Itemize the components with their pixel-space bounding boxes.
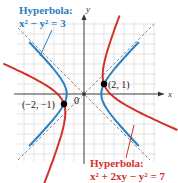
red-hyperbola-title: Hyperbola: xyxy=(90,157,144,169)
red-label-pointer xyxy=(126,125,134,158)
origin-label: 0 xyxy=(74,95,79,106)
origin-dot xyxy=(82,92,86,96)
blue-hyperbola-title: Hyperbola: xyxy=(19,4,73,16)
blue-hyperbola-equation: x² − y² = 3 xyxy=(19,17,66,29)
y-axis-arrow-icon xyxy=(82,14,87,20)
x-axis-label: x xyxy=(167,89,172,99)
y-axis-label: y xyxy=(85,4,90,14)
red-hyperbola-equation: x² + 2xy − y² = 7 xyxy=(90,170,165,182)
hyperbola-plot: y x 0 (2, 1) (−2, −1) Hyperbola: x² − y²… xyxy=(0,0,178,183)
point-neg2-neg1-label: (−2, −1) xyxy=(22,99,55,111)
intersection-point xyxy=(101,81,107,87)
x-axis-arrow-icon xyxy=(158,92,164,97)
intersection-point xyxy=(61,101,67,107)
point-2-1-label: (2, 1) xyxy=(108,79,130,91)
